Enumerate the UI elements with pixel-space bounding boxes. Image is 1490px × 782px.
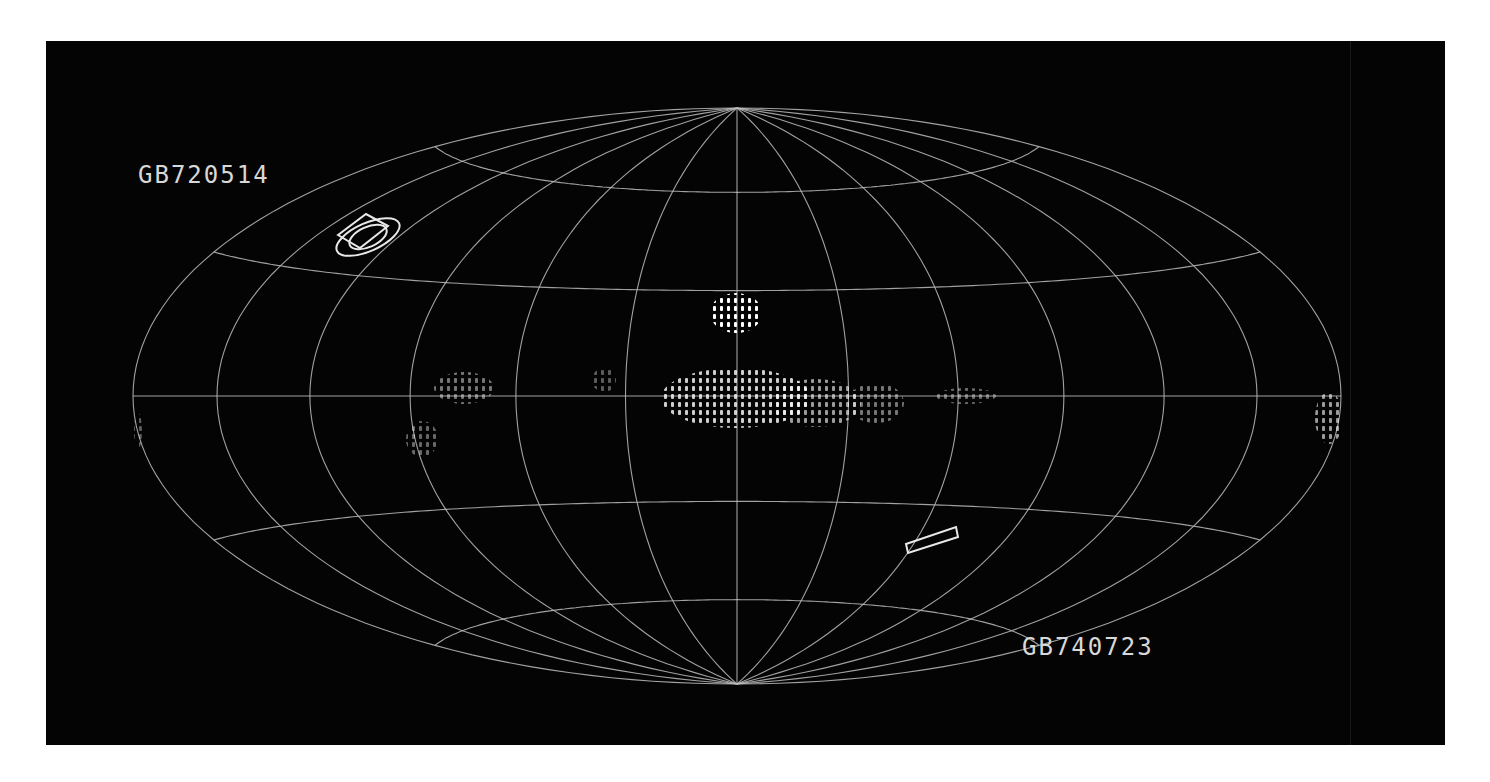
emission-region: [710, 293, 762, 333]
sky-map-panel: GB720514 GB740723: [46, 41, 1445, 745]
emission-regions: [134, 293, 1343, 457]
all-sky-map: [46, 41, 1445, 745]
emission-region: [848, 383, 904, 423]
emission-region: [936, 388, 996, 404]
emission-region: [1315, 392, 1343, 444]
emission-region: [134, 413, 142, 449]
label-gb740723: GB740723: [1022, 633, 1154, 661]
label-gb720514: GB720514: [138, 161, 270, 189]
emission-region: [406, 421, 438, 457]
error-box-gb740723: [906, 527, 958, 553]
emission-region: [771, 379, 861, 427]
emission-region: [592, 368, 616, 392]
emission-region: [434, 372, 494, 404]
